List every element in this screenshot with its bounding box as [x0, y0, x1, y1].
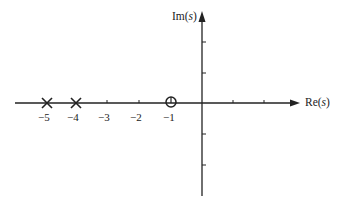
real-axis-arrow-icon	[290, 100, 300, 107]
x-tick-label: −1	[163, 112, 175, 123]
x-tick-label: −3	[98, 112, 110, 123]
x-tick-label: −5	[38, 112, 50, 123]
x-axis-title: Re(s)	[305, 97, 330, 109]
pole-zero-plot	[0, 0, 346, 207]
x-tick-label: −2	[130, 112, 142, 123]
y-axis-title: Im(s)	[172, 11, 197, 23]
imaginary-axis-arrow-icon	[199, 11, 206, 22]
zero-marker-icon	[166, 97, 176, 107]
x-tick-label: −4	[67, 112, 79, 123]
